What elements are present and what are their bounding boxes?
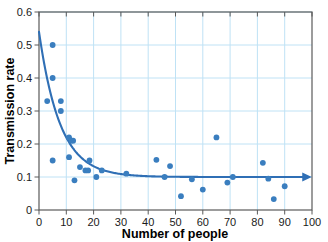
data-point — [189, 176, 195, 182]
chart-container: 0102030405060708090100 00.10.20.30.40.50… — [0, 0, 328, 242]
chart-background — [0, 0, 328, 242]
y-tick-label: 0.3 — [17, 105, 32, 117]
y-tick-label: 0 — [26, 204, 32, 216]
data-point — [224, 180, 230, 186]
data-point — [265, 176, 271, 182]
data-point — [50, 42, 56, 48]
x-tick-label: 80 — [251, 216, 263, 228]
y-tick-label: 0.5 — [17, 39, 32, 51]
data-point — [44, 98, 50, 104]
data-point — [87, 158, 93, 164]
data-point — [85, 168, 91, 174]
data-point — [200, 187, 206, 193]
data-point — [271, 196, 277, 202]
data-point — [72, 177, 78, 183]
data-point — [230, 174, 236, 180]
data-point — [167, 163, 173, 169]
x-axis-title: Number of people — [122, 227, 228, 241]
data-point — [58, 108, 64, 114]
data-point — [70, 138, 76, 144]
data-point — [58, 98, 64, 104]
data-point — [99, 168, 105, 174]
data-point — [162, 174, 168, 180]
x-tick-label: 100 — [303, 216, 321, 228]
data-point — [50, 75, 56, 81]
y-axis-title: Transmission rate — [3, 57, 17, 164]
data-point — [123, 171, 129, 177]
x-tick-label: 10 — [60, 216, 72, 228]
data-point — [282, 183, 288, 189]
x-tick-label: 20 — [87, 216, 99, 228]
data-point — [153, 157, 159, 163]
y-tick-label: 0.2 — [17, 138, 32, 150]
x-tick-label: 90 — [279, 216, 291, 228]
data-point — [178, 193, 184, 199]
data-point — [66, 154, 72, 160]
data-point — [50, 158, 56, 164]
y-tick-label: 0.1 — [17, 171, 32, 183]
data-point — [77, 164, 83, 170]
y-tick-label: 0.6 — [17, 6, 32, 18]
data-point — [93, 174, 99, 180]
transmission-rate-scatter-chart: 0102030405060708090100 00.10.20.30.40.50… — [0, 0, 328, 242]
data-point — [214, 135, 220, 141]
x-tick-label: 0 — [36, 216, 42, 228]
y-tick-label: 0.4 — [17, 72, 32, 84]
data-point — [260, 160, 266, 166]
